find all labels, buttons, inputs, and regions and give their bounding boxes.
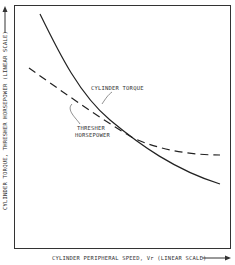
thresher-horsepower-curve [29, 68, 220, 155]
chart: CYLINDER TORQUE THRESHER HORSEPOWER CYLI… [0, 0, 235, 265]
thresher-label-line2: HORSEPOWER [75, 132, 111, 138]
y-axis-arrow-icon [3, 6, 8, 33]
torque-leader-line [102, 92, 112, 104]
y-axis-label: CYLINDER TORQUE, THRESHER HORSEPOWER (LI… [2, 31, 8, 210]
x-axis-label: CYLINDER PERIPHERAL SPEED, Vr (LINEAR SC… [52, 255, 207, 261]
torque-label: CYLINDER TORQUE [91, 85, 144, 91]
thresher-leader-line [70, 104, 80, 124]
plot-frame [15, 6, 231, 249]
cylinder-torque-curve [40, 14, 220, 184]
thresher-label-line1: THRESHER [77, 125, 106, 131]
